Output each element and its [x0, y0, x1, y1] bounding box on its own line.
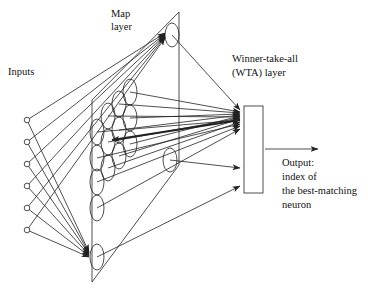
map-layer-label-2: layer	[111, 20, 132, 33]
inputs-label: Inputs	[8, 65, 34, 78]
wta-box	[244, 106, 263, 193]
map-layer-label-1: Map	[111, 7, 130, 20]
wta-connections	[97, 35, 240, 257]
map-layer-plane	[92, 12, 179, 282]
som-network-diagram	[0, 0, 370, 288]
wta-label-2: (WTA) layer	[232, 66, 286, 79]
wta-label-1: Winner-take-all	[232, 52, 298, 65]
output-label-1: Output:	[282, 156, 314, 169]
map-neurons	[90, 23, 179, 270]
output-label-3: the best-matching	[282, 184, 357, 197]
input-nodes	[24, 117, 30, 233]
output-label-4: neuron	[282, 198, 311, 211]
output-label-2: index of	[282, 170, 317, 183]
